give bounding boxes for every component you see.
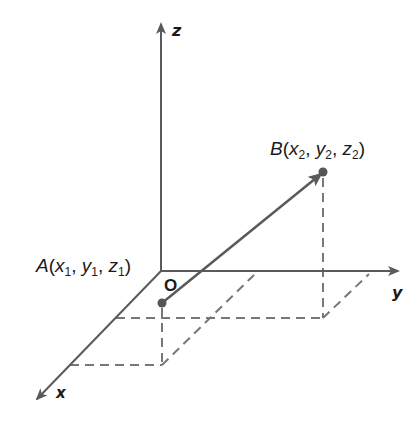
point-b (319, 168, 328, 177)
point-a (158, 299, 167, 308)
y-axis-label: y (392, 283, 403, 302)
x-axis-label: x (55, 384, 67, 402)
origin-label: O (164, 276, 177, 295)
vector-ab (162, 174, 321, 303)
coordinate-diagram: z y x O A(x1, y1, z1) B(x2, y2, z2) (0, 0, 420, 430)
axes (37, 24, 398, 399)
x-axis (37, 271, 161, 399)
b-plane-diagonal-dash (323, 274, 369, 318)
point-b-label: B(x2, y2, z2) (270, 138, 365, 162)
point-a-label: A(x1, y1, z1) (35, 255, 131, 279)
z-axis-label: z (171, 21, 182, 40)
